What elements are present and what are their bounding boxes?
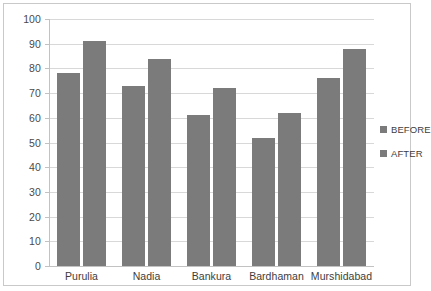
chart-legend: BEFOREAFTER	[380, 124, 431, 159]
y-axis-tick-mark	[45, 266, 49, 267]
gridline	[49, 266, 374, 267]
bar-after[interactable]	[83, 41, 106, 266]
legend-item[interactable]: BEFORE	[380, 124, 431, 135]
bar-before[interactable]	[57, 73, 80, 266]
y-axis-tick-label: 0	[7, 260, 41, 272]
bar-after[interactable]	[148, 59, 171, 266]
legend-item[interactable]: AFTER	[380, 148, 431, 159]
x-axis-label: Bardhaman	[244, 270, 309, 282]
bar-group	[244, 19, 309, 266]
y-axis-tick-label: 60	[7, 112, 41, 124]
legend-swatch-icon	[380, 150, 387, 157]
legend-label: BEFORE	[391, 124, 431, 135]
bar-before[interactable]	[317, 78, 340, 266]
bar-group	[179, 19, 244, 266]
y-axis-tick-label: 100	[7, 13, 41, 25]
y-axis-tick-label: 10	[7, 235, 41, 247]
bar-group	[309, 19, 374, 266]
bar-before[interactable]	[252, 138, 275, 266]
bar-after[interactable]	[213, 88, 236, 266]
legend-swatch-icon	[380, 126, 387, 133]
x-axis-category-labels: PuruliaNadiaBankuraBardhamanMurshidabad	[49, 270, 374, 282]
bar-group	[114, 19, 179, 266]
x-axis-label: Nadia	[114, 270, 179, 282]
y-axis-tick-label: 90	[7, 38, 41, 50]
bar-before[interactable]	[122, 86, 145, 266]
bar-after[interactable]	[343, 49, 366, 266]
legend-label: AFTER	[391, 148, 423, 159]
x-axis-label: Murshidabad	[309, 270, 374, 282]
x-axis-label: Bankura	[179, 270, 244, 282]
bar-group	[49, 19, 114, 266]
bar-after[interactable]	[278, 113, 301, 266]
y-axis-tick-label: 20	[7, 211, 41, 223]
chart-container: 0102030405060708090100 PuruliaNadiaBanku…	[3, 3, 411, 286]
y-axis-tick-label: 70	[7, 87, 41, 99]
bar-before[interactable]	[187, 115, 210, 266]
y-axis-tick-label: 40	[7, 161, 41, 173]
y-axis-tick-label: 80	[7, 62, 41, 74]
y-axis-tick-label: 50	[7, 137, 41, 149]
x-axis-label: Purulia	[49, 270, 114, 282]
bar-groups	[49, 19, 374, 266]
y-axis-tick-label: 30	[7, 186, 41, 198]
